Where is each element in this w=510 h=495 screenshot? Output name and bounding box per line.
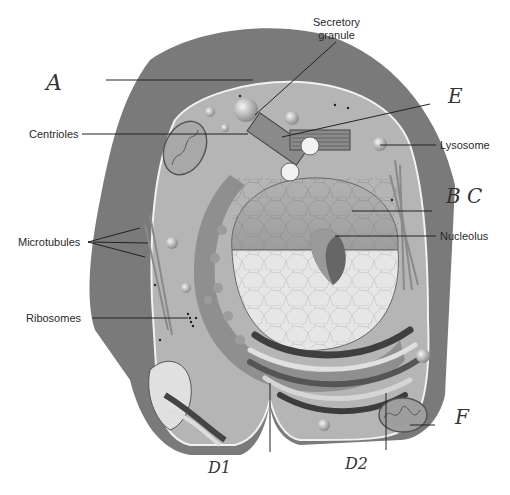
label-microtubules: Microtubules — [18, 236, 80, 249]
label-nucleolus: Nucleolus — [440, 230, 488, 243]
handwritten-label-a: A — [46, 72, 62, 94]
label-ribosomes: Ribosomes — [26, 312, 81, 325]
handwritten-label-bc: B C — [446, 186, 482, 206]
label-secretory-granule: Secretory granule — [313, 16, 360, 42]
label-lysosome: Lysosome — [440, 139, 490, 152]
handwritten-label-d2: D2 — [345, 456, 368, 472]
handwritten-label-d1: D1 — [208, 460, 231, 476]
label-centrioles: Centrioles — [29, 128, 79, 141]
handwritten-label-e: E — [448, 86, 463, 106]
handwritten-label-f: F — [455, 407, 469, 427]
label-line-2: granule — [313, 29, 360, 42]
label-line-1: Secretory — [313, 16, 360, 29]
cell-diagram: Secretory granule Centrioles Lysosome Mi… — [0, 0, 510, 495]
